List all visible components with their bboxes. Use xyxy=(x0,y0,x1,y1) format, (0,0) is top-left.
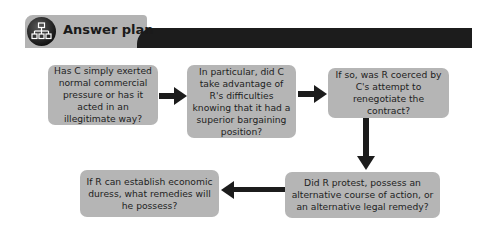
header-bar xyxy=(140,28,472,48)
flow-step-2: In particular, did C take advantage of R… xyxy=(187,65,296,138)
arrow-right-icon xyxy=(158,86,188,106)
flow-step-4: Did R protest, possess an alternative co… xyxy=(285,172,440,218)
flow-step-3: If so, was R coerced by C's attempt to r… xyxy=(328,68,449,118)
arrow-right-icon xyxy=(297,84,328,104)
header-title: Answer plan xyxy=(63,22,154,37)
arrow-left-icon xyxy=(220,180,286,200)
arrow-down-icon xyxy=(356,118,376,173)
flow-step-5: If R can establish economic duress, what… xyxy=(80,170,219,217)
flow-step-1: Has C simply exerted normal commercial p… xyxy=(48,65,158,125)
flowchart-hierarchy-icon xyxy=(27,17,56,46)
